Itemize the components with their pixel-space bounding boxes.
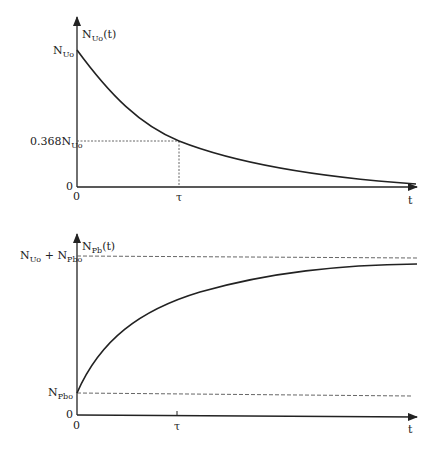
- top-x-tick-tau: τ: [176, 191, 182, 204]
- top-y-tick-0368: 0.368NUo: [30, 135, 83, 150]
- bottom-x-axis: [77, 415, 417, 417]
- lower-asymptote: [77, 393, 411, 396]
- top-y-tick-zero: 0: [66, 180, 73, 193]
- bottom-y-axis-label: NPb(t): [82, 240, 115, 255]
- bottom-x-axis-label: t: [408, 423, 413, 436]
- bottom-chart: NPb(t) NUo + NPbo NPbo 0 0 τ t: [20, 234, 417, 436]
- upper-asymptote: [77, 256, 417, 258]
- bottom-y-tick-zero: 0: [66, 408, 73, 421]
- bottom-x-tick-zero: 0: [73, 419, 80, 432]
- decay-curve: [77, 50, 416, 184]
- top-x-axis-label: t: [408, 194, 413, 207]
- top-y-axis-label: NUo(t): [82, 28, 116, 43]
- top-x-tick-zero: 0: [73, 190, 80, 203]
- bottom-y-tick-npbo: NPbo: [48, 386, 73, 401]
- top-y-tick-nuo: NUo: [53, 44, 74, 59]
- bottom-x-tick-tau: τ: [174, 420, 180, 433]
- growth-curve: [77, 264, 417, 393]
- diagram-canvas: NUo(t) NUo 0.368NUo 0 0 τ t NPb(t) NUo +…: [0, 0, 436, 449]
- bottom-y-tick-sum: NUo + NPbo: [20, 249, 83, 264]
- top-chart: NUo(t) NUo 0.368NUo 0 0 τ t: [30, 17, 417, 207]
